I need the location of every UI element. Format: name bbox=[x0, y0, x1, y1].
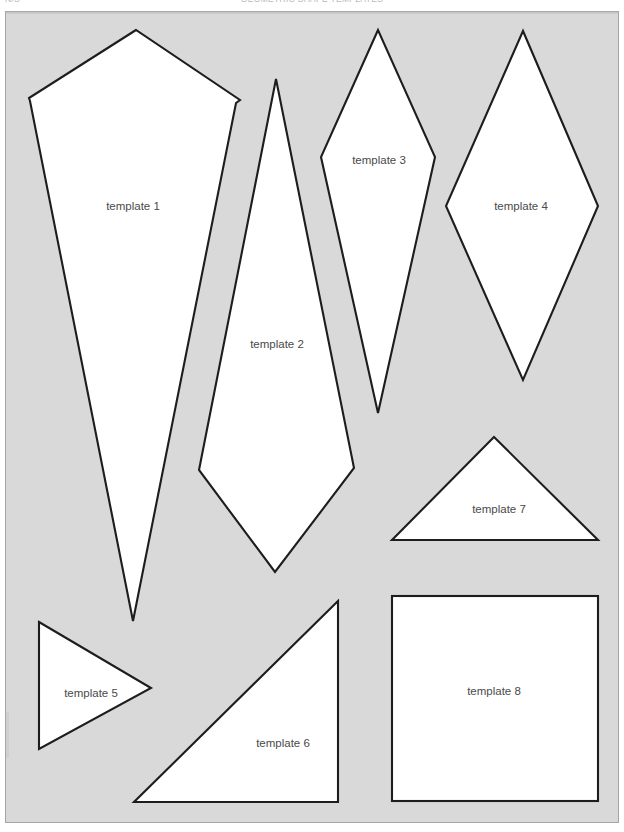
template-shape[interactable]: template 6 bbox=[134, 601, 338, 802]
template-label: template 4 bbox=[494, 200, 548, 212]
template-label: template 8 bbox=[467, 685, 521, 697]
template-shape[interactable]: template 8 bbox=[392, 596, 598, 801]
template-shape[interactable]: template 1 bbox=[29, 30, 240, 621]
template-outline[interactable] bbox=[392, 437, 598, 540]
template-outline[interactable] bbox=[134, 601, 338, 802]
template-label: template 6 bbox=[256, 737, 310, 749]
template-label: template 3 bbox=[352, 154, 406, 166]
template-shape[interactable]: template 7 bbox=[392, 437, 598, 540]
template-label: template 2 bbox=[250, 338, 304, 350]
template-outline[interactable] bbox=[39, 622, 151, 749]
template-outline[interactable] bbox=[321, 30, 435, 413]
shapes-layer: template 1template 2template 3template 4… bbox=[0, 0, 624, 832]
template-outline[interactable] bbox=[392, 596, 598, 801]
template-label: template 1 bbox=[106, 200, 160, 212]
template-shape[interactable]: template 5 bbox=[39, 622, 151, 749]
template-label: template 5 bbox=[64, 687, 118, 699]
template-shape[interactable]: template 4 bbox=[446, 31, 598, 380]
template-outline[interactable] bbox=[29, 30, 240, 621]
template-shape[interactable]: template 3 bbox=[321, 30, 435, 413]
document-page: N/S GEOMETRIC SHAPE TEMPLATES template 1… bbox=[0, 0, 624, 832]
template-label: template 7 bbox=[472, 503, 526, 515]
